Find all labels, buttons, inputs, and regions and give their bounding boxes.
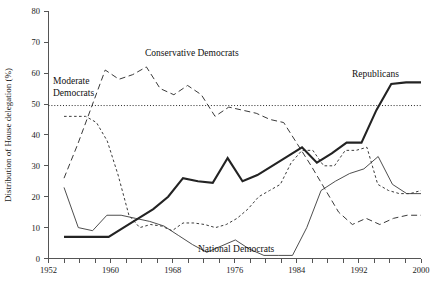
x-tick-label-2000: 2000 [413,265,430,275]
annotation-conservative-democrats: Conservative Democrats [145,48,239,58]
annotation-national-democrats: National Democrats [198,244,275,254]
y-tick-label-10: 10 [32,223,41,233]
y-tick-label-40: 40 [32,130,41,140]
x-tick-group: 1952196019681976198419922000 [40,259,430,275]
series-line-national-democrats [64,157,421,256]
x-tick-label-1976: 1976 [226,265,243,275]
series-line-conservative-democrats [64,67,421,225]
annotation-republicans: Republicans [352,69,399,79]
x-tick-label-1960: 1960 [102,265,119,275]
annotation-moderate-democrats-line2: Democrats [53,88,94,98]
series-group [64,67,421,255]
house-delegation-line-chart: 0 10 20 30 40 50 60 70 80 19521960196819… [0,0,430,291]
chart-canvas: 0 10 20 30 40 50 60 70 80 19521960196819… [0,0,430,291]
y-axis-title: Distribution of House delegation (%) [3,68,13,202]
x-tick-label-1952: 1952 [40,265,57,275]
x-tick-label-1984: 1984 [288,265,306,275]
y-tick-label-30: 30 [32,161,41,171]
y-tick-label-80: 80 [32,6,41,16]
series-line-moderate-democrats [64,116,421,230]
y-tick-label-20: 20 [32,192,41,202]
annotation-moderate-democrats-line1: Moderate [53,76,89,86]
y-tick-label-60: 60 [32,68,41,78]
annotation-group: Moderate Democrats Conservative Democrat… [53,48,399,254]
y-tick-label-70: 70 [32,37,41,47]
y-tick-label-0: 0 [36,254,40,264]
y-tick-label-50: 50 [32,99,41,109]
x-tick-label-1968: 1968 [164,265,181,275]
x-tick-label-1992: 1992 [350,265,367,275]
y-tick-group: 0 10 20 30 40 50 60 70 80 [32,6,49,263]
